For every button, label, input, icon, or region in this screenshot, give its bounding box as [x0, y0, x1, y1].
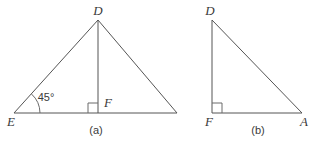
figure-b-label-f: F [204, 114, 214, 129]
figure-b-group: D F A (b) [204, 3, 308, 136]
figure-a-caption: (a) [89, 124, 102, 136]
figure-a-left-side [14, 20, 98, 113]
figure-a-label-f: F [103, 95, 113, 110]
geometry-diagram-svg: D E F 45° (a) D F A [0, 0, 322, 145]
figure-a-label-d: D [92, 3, 103, 18]
figure-b-right-angle-mark [212, 103, 222, 113]
figure-b-hypotenuse [212, 20, 302, 113]
figure-a-group: D E F 45° (a) [6, 3, 177, 136]
figure-b-label-d: D [204, 3, 215, 18]
figure-a-angle-label: 45° [38, 91, 55, 103]
figure-a-right-angle-mark [88, 103, 98, 113]
geometry-figure-board: D E F 45° (a) D F A [0, 0, 322, 145]
figure-b-label-a: A [299, 114, 308, 129]
figure-b-caption: (b) [251, 124, 264, 136]
figure-a-label-e: E [6, 114, 15, 129]
